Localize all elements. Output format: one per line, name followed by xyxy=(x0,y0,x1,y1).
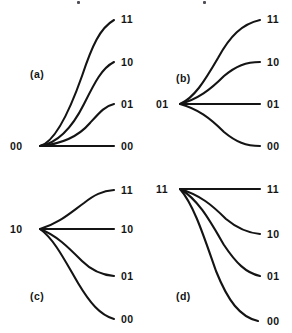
panel-d: 11 (d) 11 10 01 00 xyxy=(146,167,292,333)
panel-b-label: (b) xyxy=(176,72,191,84)
panel-d-end-label-10: 10 xyxy=(267,228,279,240)
panel-a-end-label-10: 10 xyxy=(121,56,133,68)
panel-c-end-label-00: 00 xyxy=(121,313,133,325)
curve-b-to-11 xyxy=(180,20,260,104)
curve-c-to-11 xyxy=(40,190,114,229)
panel-a: 00 (a) 11 10 01 00 xyxy=(0,0,146,166)
panel-b-end-label-00: 00 xyxy=(267,140,279,152)
panel-b: 01 (b) 11 10 01 00 xyxy=(146,0,292,166)
curve-c-to-01 xyxy=(40,229,114,276)
curve-a-to-11 xyxy=(40,20,114,146)
panel-a-origin-label: 00 xyxy=(10,140,22,152)
panel-c-label: (c) xyxy=(30,290,44,302)
panel-a-label: (a) xyxy=(30,68,44,80)
curve-d-to-10 xyxy=(180,189,260,234)
panel-b-end-label-01: 01 xyxy=(267,98,279,110)
panel-d-label: (d) xyxy=(176,290,191,302)
panel-c: 10 (c) 11 10 01 00 xyxy=(0,167,146,333)
panel-d-origin-label: 11 xyxy=(156,183,168,195)
panel-a-end-label-01: 01 xyxy=(121,98,133,110)
panel-d-end-label-11: 11 xyxy=(267,183,279,195)
figure-canvas: 00 (a) 11 10 01 00 01 (b) 11 10 01 00 10… xyxy=(0,0,292,333)
panel-d-end-label-01: 01 xyxy=(267,270,279,282)
curve-d-to-00 xyxy=(180,189,258,321)
curve-b-to-00 xyxy=(180,104,260,146)
panel-b-end-label-11: 11 xyxy=(267,13,279,25)
panel-c-origin-label: 10 xyxy=(10,223,22,235)
panel-a-end-label-00: 00 xyxy=(121,140,133,152)
panel-a-end-label-11: 11 xyxy=(121,13,133,25)
panel-d-end-label-00: 00 xyxy=(267,315,279,327)
panel-b-end-label-10: 10 xyxy=(267,56,279,68)
panel-b-origin-label: 01 xyxy=(156,98,168,110)
panel-c-end-label-01: 01 xyxy=(121,270,133,282)
curve-b-to-10 xyxy=(180,62,260,104)
panel-c-end-label-10: 10 xyxy=(121,223,133,235)
panel-c-end-label-11: 11 xyxy=(121,184,133,196)
